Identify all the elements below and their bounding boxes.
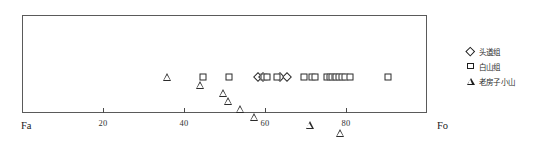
legend-item-toudao[interactable]: 头道组 xyxy=(464,44,541,58)
legend-item-baishan[interactable]: 白山组 xyxy=(464,59,541,73)
legend-label: 头道组 xyxy=(479,46,501,57)
legend-label: 白山组 xyxy=(479,61,501,72)
triangle-icon xyxy=(464,78,477,85)
square-icon xyxy=(464,63,477,70)
data-point-square xyxy=(385,74,392,81)
x-tick-mark xyxy=(346,108,347,113)
data-point-triangle xyxy=(163,73,171,81)
data-point-triangle xyxy=(196,81,204,89)
legend: 头道组 白山组 老房子小山 xyxy=(464,44,541,89)
data-point-triangle xyxy=(224,97,232,105)
data-markers-layer xyxy=(22,15,427,79)
olivine-composition-figure: 20406080 Fa Fo 头道组 白山组 老房子小山 xyxy=(0,0,541,157)
x-tick-label: 40 xyxy=(180,118,189,128)
x-tick-label: 80 xyxy=(342,118,351,128)
x-tick-label: 60 xyxy=(261,118,270,128)
data-point-triangle xyxy=(250,113,258,121)
diamond-icon xyxy=(464,48,477,55)
data-point-square xyxy=(264,74,271,81)
plot-area xyxy=(22,15,427,113)
data-point-square xyxy=(274,74,281,81)
x-tick-mark xyxy=(103,108,104,113)
data-point-triangle xyxy=(236,105,244,113)
legend-item-laofangzi-xiaoshan[interactable]: 老房子小山 xyxy=(464,74,541,88)
data-point-triangle xyxy=(306,121,314,129)
data-point-triangle xyxy=(336,129,344,137)
data-point-square xyxy=(347,74,354,81)
data-point-diamond xyxy=(282,72,292,82)
data-point-square xyxy=(312,74,319,81)
x-tick-mark xyxy=(265,108,266,113)
axis-start-label: Fa xyxy=(21,120,32,131)
data-point-square xyxy=(226,74,233,81)
data-point-square xyxy=(300,74,307,81)
x-tick-label: 20 xyxy=(99,118,108,128)
data-point-square xyxy=(199,74,206,81)
axis-end-label: Fo xyxy=(437,120,448,131)
x-tick-mark xyxy=(184,108,185,113)
data-point-triangle xyxy=(219,89,227,97)
legend-label: 老房子小山 xyxy=(479,76,515,87)
